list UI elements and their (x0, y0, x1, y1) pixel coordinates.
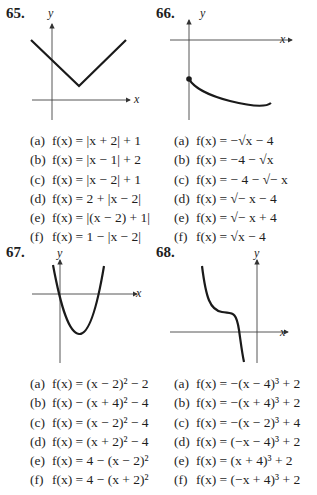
choice-label: (a) (174, 374, 196, 393)
choice-68-e: (e)f(x) = (x + 4)³ + 2 (174, 451, 300, 470)
choice-label: (d) (174, 189, 196, 208)
choice-label: (c) (174, 170, 196, 189)
choice-67-d: (d)f(x) = (x + 2)² − 4 (30, 432, 149, 451)
choice-expr: f(x) = 4 − (x − 2)² (52, 453, 149, 468)
choice-label: (d) (30, 189, 52, 208)
choice-65-c: (c)f(x) = |x − 2| + 1 (30, 170, 150, 189)
start-point (186, 76, 192, 82)
choice-expr: f(x) = √− x + 4 (196, 210, 277, 225)
choice-65-d: (d)f(x) = 2 + |x − 2| (30, 189, 150, 208)
choice-label: (c) (30, 413, 52, 432)
choice-66-a: (a)f(x) = −√x − 4 (174, 131, 288, 150)
graph-67 (25, 248, 150, 366)
parabola-curve (53, 265, 104, 334)
choices-67: (a)f(x) = (x − 2)² − 2 (b)f(x) − (x + 4)… (30, 374, 149, 490)
graph-65 (25, 8, 140, 123)
graph-66 (170, 8, 310, 123)
choice-65-e: (e)f(x) = |(x − 2) + 1| (30, 208, 150, 227)
choice-expr: f(x) = −√x − 4 (196, 133, 274, 148)
sqrt-curve (189, 79, 271, 106)
choice-label: (f) (30, 470, 52, 489)
problem-number-67: 67. (6, 244, 25, 261)
choice-label: (f) (30, 227, 52, 246)
y-axis-label-67: y (57, 246, 62, 261)
choice-expr: f(x) = −(x − 2)³ + 4 (196, 415, 300, 430)
choice-66-f: (f)f(x) = √x − 4 (174, 227, 288, 246)
choice-expr: f(x) = √x − 4 (196, 229, 266, 244)
choice-label: (d) (174, 432, 196, 451)
choice-expr: f(x) = 4 − (x + 2)² (52, 472, 149, 487)
x-axis-label-68: x (280, 325, 285, 340)
choice-label: (c) (174, 413, 196, 432)
y-axis-label-68: y (254, 246, 259, 261)
choice-67-c: (c)f(x) = (x − 2)² − 4 (30, 413, 149, 432)
choice-expr: f(x) = 1 − |x − 2| (52, 229, 141, 244)
choice-label: (b) (174, 150, 196, 169)
v-curve (31, 40, 126, 86)
choice-expr: f(x) = −(x − 4)³ + 2 (196, 376, 300, 391)
choice-label: (b) (30, 150, 52, 169)
choice-65-f: (f)f(x) = 1 − |x − 2| (30, 227, 150, 246)
choice-67-a: (a)f(x) = (x − 2)² − 2 (30, 374, 149, 393)
choice-68-b: (b)f(x) = −(x + 4)³ + 2 (174, 393, 300, 412)
choice-66-e: (e)f(x) = √− x + 4 (174, 208, 288, 227)
choice-label: (c) (30, 170, 52, 189)
choice-66-d: (d)f(x) = √− x − 4 (174, 189, 288, 208)
x-axis-label-67: x (136, 286, 141, 301)
choice-68-d: (d)f(x) = (−x − 4)³ + 2 (174, 432, 300, 451)
x-axis-label-65: x (134, 92, 139, 107)
choice-label: (b) (174, 393, 196, 412)
y-axis-label-66: y (200, 6, 205, 21)
choice-65-a: (a)f(x) = |x + 2| + 1 (30, 131, 150, 150)
choice-expr: f(x) = 2 + |x − 2| (52, 191, 141, 206)
choice-66-b: (b)f(x) = −4 − √x (174, 150, 288, 169)
choices-65: (a)f(x) = |x + 2| + 1 (b)f(x) = |x − 1| … (30, 131, 150, 247)
x-axis-label-66: x (280, 32, 285, 47)
choice-expr: f(x) = − 4 − √− x (196, 172, 288, 187)
choice-expr: f(x) = (x + 4)³ + 2 (196, 453, 293, 468)
choices-68: (a)f(x) = −(x − 4)³ + 2 (b)f(x) = −(x + … (174, 374, 300, 490)
choice-expr: f(x) = |x − 2| + 1 (52, 172, 141, 187)
choice-67-f: (f)f(x) = 4 − (x + 2)² (30, 470, 149, 489)
choice-label: (e) (174, 451, 196, 470)
choice-label: (b) (30, 393, 52, 412)
choice-expr: f(x) = |(x − 2) + 1| (52, 210, 150, 225)
choice-label: (e) (30, 208, 52, 227)
choice-expr: f(x) = (x − 2)² − 4 (52, 415, 149, 430)
choice-label: (f) (174, 227, 196, 246)
choice-expr: f(x) = (x + 2)² − 4 (52, 434, 149, 449)
choice-expr: f(x) = (x − 2)² − 2 (52, 376, 149, 391)
choice-expr: f(x) − (x + 4)² − 4 (52, 395, 149, 410)
choice-label: (f) (174, 470, 196, 489)
choice-expr: f(x) = (−x − 4)³ + 2 (196, 434, 300, 449)
choice-expr: f(x) = −4 − √x (196, 152, 274, 167)
choice-expr: f(x) = |x − 1| + 2 (52, 152, 141, 167)
choices-66: (a)f(x) = −√x − 4 (b)f(x) = −4 − √x (c)f… (174, 131, 288, 247)
choice-expr: f(x) = √− x − 4 (196, 191, 277, 206)
choice-67-b: (b)f(x) − (x + 4)² − 4 (30, 393, 149, 412)
problem-number-65: 65. (6, 5, 25, 22)
choice-label: (a) (174, 131, 196, 150)
choice-66-c: (c)f(x) = − 4 − √− x (174, 170, 288, 189)
cubic-curve (202, 266, 244, 362)
choice-label: (a) (30, 374, 52, 393)
y-axis-label-65: y (48, 6, 53, 21)
graph-68 (170, 248, 310, 366)
choice-label: (e) (174, 208, 196, 227)
choice-expr: f(x) = −(x + 4)³ + 2 (196, 395, 300, 410)
choice-expr: f(x) = |x + 2| + 1 (52, 133, 141, 148)
choice-label: (e) (30, 451, 52, 470)
choice-67-e: (e)f(x) = 4 − (x − 2)² (30, 451, 149, 470)
choice-68-f: (f)f(x) = (−x + 4)³ + 2 (174, 470, 300, 489)
choice-label: (a) (30, 131, 52, 150)
choice-68-a: (a)f(x) = −(x − 4)³ + 2 (174, 374, 300, 393)
choice-expr: f(x) = (−x + 4)³ + 2 (196, 472, 300, 487)
choice-label: (d) (30, 432, 52, 451)
choice-68-c: (c)f(x) = −(x − 2)³ + 4 (174, 413, 300, 432)
choice-65-b: (b)f(x) = |x − 1| + 2 (30, 150, 150, 169)
